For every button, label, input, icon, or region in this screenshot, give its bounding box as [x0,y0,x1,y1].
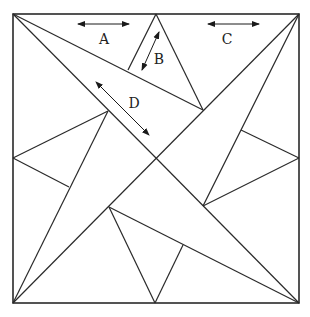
piece-line [13,111,108,303]
piece-line [109,207,155,303]
piece-line [109,207,299,303]
label-a: A [98,31,110,47]
piece-line [13,14,203,110]
piece-line [203,158,299,206]
label-b: B [154,51,164,67]
piece-line [13,158,69,187]
quilt-diagram: A B C D [0,0,310,317]
double-arrow-icon-d [96,82,149,135]
piece-line [128,14,156,70]
piece-line [155,245,183,303]
piece-line [13,111,108,158]
piece-line [241,130,299,158]
diagram-canvas: A B C D [0,0,310,317]
piece-line [13,14,156,158]
piece-line [156,158,299,303]
piece-labels: A B C D [98,31,232,111]
piece-line [203,14,299,206]
label-d: D [128,95,139,111]
label-c: C [222,31,233,47]
